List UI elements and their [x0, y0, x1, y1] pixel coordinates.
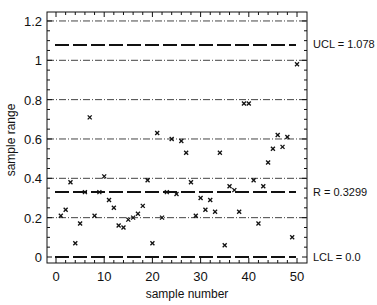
- data-point-x-marker: [117, 224, 121, 228]
- y-tick-label: 0.4: [24, 171, 42, 186]
- data-point-x-marker: [184, 151, 188, 155]
- data-point-x-marker: [208, 198, 212, 202]
- data-point-x-marker: [290, 235, 294, 239]
- y-tick-label: 0.6: [24, 132, 42, 147]
- y-tick-label: 0: [35, 250, 42, 265]
- axis-ticks: [47, 12, 307, 263]
- data-point-x-marker: [112, 206, 116, 210]
- data-point-x-marker: [271, 147, 275, 151]
- data-point-x-marker: [295, 62, 299, 66]
- data-point-x-marker: [107, 198, 111, 202]
- data-point-x-marker: [228, 184, 232, 188]
- y-axis-label: sample range: [4, 103, 18, 176]
- data-point-x-marker: [261, 184, 265, 188]
- data-point-x-marker: [88, 115, 92, 119]
- data-point-x-marker: [203, 208, 207, 212]
- plot-frame: [47, 12, 307, 263]
- x-tick-label: 30: [193, 269, 207, 284]
- data-point-x-marker: [150, 241, 154, 245]
- data-points: [59, 62, 299, 247]
- x-tick-label: 0: [52, 269, 59, 284]
- data-point-x-marker: [232, 188, 236, 192]
- y-tick-labels: 00.20.40.60.811.2: [24, 14, 42, 265]
- ucl-label: UCL = 1.078: [313, 38, 375, 50]
- x-axis-label: sample number: [146, 287, 229, 301]
- data-point-x-marker: [285, 135, 289, 139]
- data-point-x-marker: [93, 214, 97, 218]
- y-tick-label: 0.8: [24, 93, 42, 108]
- gridlines: [47, 21, 307, 218]
- data-point-x-marker: [218, 151, 222, 155]
- data-point-x-marker: [252, 178, 256, 182]
- control-chart: 00.20.40.60.811.2 01020304050 sample num…: [0, 0, 377, 305]
- data-point-x-marker: [242, 102, 246, 106]
- x-tick-label: 50: [290, 269, 304, 284]
- data-point-x-marker: [126, 218, 130, 222]
- data-point-x-marker: [64, 208, 68, 212]
- data-point-x-marker: [73, 241, 77, 245]
- center-line-label: R = 0.3299: [313, 186, 367, 198]
- data-point-x-marker: [141, 204, 145, 208]
- data-point-x-marker: [199, 196, 203, 200]
- data-point-x-marker: [78, 222, 82, 226]
- data-point-x-marker: [59, 214, 63, 218]
- data-point-x-marker: [155, 131, 159, 135]
- y-tick-label: 1.2: [24, 14, 42, 29]
- data-point-x-marker: [281, 145, 285, 149]
- lcl-label: LCL = 0.0: [313, 251, 361, 263]
- data-point-x-marker: [121, 225, 125, 229]
- data-point-x-marker: [146, 178, 150, 182]
- data-point-x-marker: [237, 210, 241, 214]
- y-tick-label: 0.2: [24, 211, 42, 226]
- y-tick-label: 1: [35, 53, 42, 68]
- x-tick-labels: 01020304050: [52, 269, 304, 284]
- data-point-x-marker: [213, 210, 217, 214]
- data-point-x-marker: [68, 180, 72, 184]
- data-point-x-marker: [194, 214, 198, 218]
- data-point-x-marker: [276, 133, 280, 137]
- data-point-x-marker: [179, 139, 183, 143]
- data-point-x-marker: [102, 174, 106, 178]
- data-point-x-marker: [247, 102, 251, 106]
- x-tick-label: 40: [242, 269, 256, 284]
- data-point-x-marker: [136, 212, 140, 216]
- data-point-x-marker: [266, 161, 270, 165]
- x-tick-label: 10: [97, 269, 111, 284]
- x-tick-label: 20: [145, 269, 159, 284]
- data-point-x-marker: [223, 243, 227, 247]
- data-point-x-marker: [256, 222, 260, 226]
- data-point-x-marker: [189, 180, 193, 184]
